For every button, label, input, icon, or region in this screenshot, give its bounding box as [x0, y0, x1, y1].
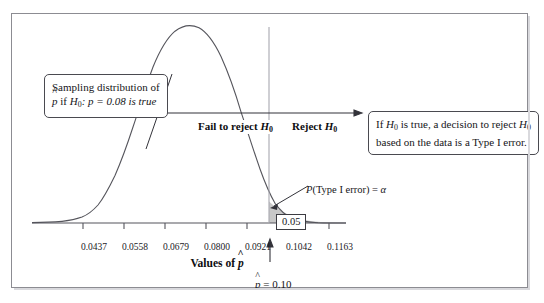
x-tick-label: 0.0800 — [194, 242, 240, 252]
callout-right-b: is true, a decision to reject — [398, 118, 519, 130]
observed-statistic-label: p = 0.10 — [255, 278, 291, 290]
h-symbol: H — [325, 120, 334, 132]
callout-right-line1: If H0 is true, a decision to reject H0 — [376, 117, 531, 135]
figure-frame: Sampling distribution of p if H0: p = 0.… — [11, 13, 528, 288]
h-subscript-2: 0 — [527, 123, 531, 132]
callout-left-mid: if — [58, 95, 70, 107]
reject-text: Reject — [292, 120, 325, 132]
callout-left-line1: Sampling distribution of — [52, 80, 160, 94]
alpha-leader-line — [274, 186, 308, 206]
x-tick-label: 0.1163 — [317, 242, 363, 252]
x-tick-label: 0.0679 — [153, 242, 199, 252]
region-label-fail-to-reject: Fail to reject H0 — [194, 120, 277, 134]
h-symbol-2: H — [519, 118, 527, 130]
h-symbol: H — [260, 120, 269, 132]
callout-right-line2: based on the data is a Type I error. — [376, 135, 531, 149]
p-hat-symbol: p — [238, 257, 244, 269]
fail-to-reject-text: Fail to reject — [198, 120, 260, 132]
h-symbol: H — [70, 95, 78, 107]
h-subscript: 0 — [333, 125, 337, 134]
p-hat-symbol: p — [52, 94, 58, 108]
x-axis-title: Values of p — [164, 257, 270, 269]
alpha-annotation-body: (Type I error) = — [312, 184, 380, 195]
axis-title-prefix: Values of — [190, 257, 238, 269]
alpha-value-box: 0.05 — [276, 214, 306, 230]
alpha-symbol: α — [381, 184, 387, 195]
callout-left-rest: : p = 0.08 is true — [82, 95, 157, 107]
observed-value: = 0.10 — [261, 278, 292, 290]
callout-type-one-error: If H0 is true, a decision to reject H0 b… — [368, 111, 539, 155]
x-tick-label: 0.1042 — [276, 242, 322, 252]
x-tick-label: 0.0558 — [112, 242, 158, 252]
h-subscript: 0 — [269, 125, 273, 134]
alpha-annotation: P(Type I error) = α — [306, 184, 386, 195]
callout-left-line2: p if H0: p = 0.08 is true — [52, 94, 160, 112]
x-tick-label: 0.0437 — [71, 242, 117, 252]
callout-right-a: If — [376, 118, 386, 130]
p-hat-symbol: p — [255, 278, 261, 290]
statistics-figure: Sampling distribution of p if H0: p = 0.… — [0, 0, 544, 303]
h-symbol: H — [386, 118, 394, 130]
region-label-reject: Reject H0 — [288, 120, 341, 134]
callout-sampling-distribution: Sampling distribution of p if H0: p = 0.… — [44, 74, 168, 118]
